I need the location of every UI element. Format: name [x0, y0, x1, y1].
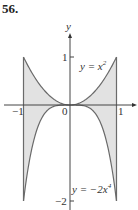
- curve-label-x-squared: y = x2: [79, 59, 107, 72]
- tick-label-neg1: −1: [12, 105, 24, 117]
- curve-label-neg-2x4: y = −2x4: [71, 182, 112, 195]
- tick-label-y1: 1: [62, 51, 68, 63]
- y-axis-arrow-icon: [68, 33, 72, 38]
- tick-label-yneg2: −2: [55, 195, 67, 207]
- x-axis-arrow-icon: [132, 103, 137, 107]
- tick-label-pos1: 1: [118, 105, 124, 117]
- y-axis-label: y: [65, 20, 71, 32]
- plot: y −1 0 1 1 −2 y = x2 y = −2x4: [0, 0, 138, 210]
- tick-label-zero: 0: [62, 105, 68, 117]
